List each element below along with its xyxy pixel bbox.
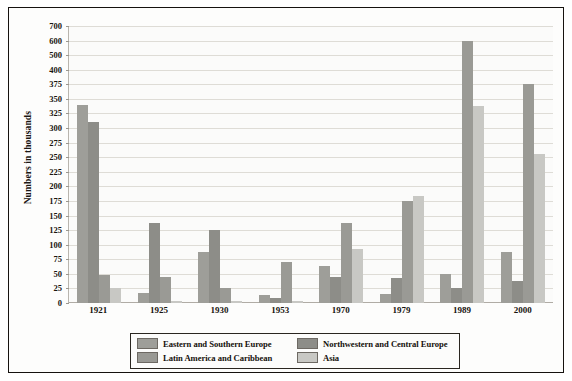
bar-1989-series-1 [440, 274, 451, 303]
legend-swatch-1 [137, 338, 158, 349]
bar-group-1970 [311, 26, 372, 303]
bar-1979-series-2 [391, 278, 402, 303]
x-axis-label-1989: 1989 [432, 305, 493, 315]
legend-swatch-2 [297, 338, 318, 349]
y-axis-tick-700: 700 [49, 22, 62, 31]
y-axis-tick-350: 350 [49, 95, 62, 104]
bar-1930-series-1 [198, 252, 209, 303]
legend-item-4[interactable]: Asia [297, 352, 453, 363]
bar-1925-series-3 [160, 277, 171, 303]
y-axis-tick-225: 225 [49, 168, 62, 177]
bar-2000-series-1 [501, 252, 512, 303]
legend-label-1: Eastern and Southern Europe [163, 339, 272, 349]
x-axis-label-1970: 1970 [311, 305, 372, 315]
bar-1970-series-2 [330, 277, 341, 303]
bar-group-1921 [69, 26, 130, 303]
y-axis-tick-300: 300 [49, 124, 62, 133]
bar-group-2000 [493, 26, 554, 303]
bar-1925-series-4 [171, 301, 182, 303]
bar-1953-series-3 [281, 262, 292, 303]
legend-label-3: Latin America and Caribbean [163, 353, 272, 363]
bar-1930-series-3 [220, 288, 231, 303]
y-axis-tick-500: 500 [49, 51, 62, 60]
y-axis-tick-100: 100 [49, 240, 62, 249]
bar-group-1925 [130, 26, 191, 303]
y-axis-tick-400: 400 [49, 65, 62, 74]
bar-1953-series-4 [292, 301, 303, 303]
y-axis-tick-150: 150 [49, 211, 62, 220]
y-axis-title: Numbers in thousands [19, 8, 37, 308]
legend-item-3[interactable]: Latin America and Caribbean [137, 352, 293, 363]
y-axis-tick-labels: 0255075100125150175200225250275300325350… [39, 26, 65, 303]
bar-1970-series-4 [352, 249, 363, 303]
y-tickmark-0 [66, 303, 69, 304]
y-axis-title-label: Numbers in thousands [23, 111, 33, 204]
bar-1925-series-2 [149, 223, 160, 303]
y-axis-tick-175: 175 [49, 197, 62, 206]
x-axis-label-1930: 1930 [189, 305, 250, 315]
bar-1953-series-1 [259, 295, 270, 303]
y-axis-tick-600: 600 [49, 36, 62, 45]
y-axis-tick-75: 75 [54, 255, 63, 264]
bar-2000-series-3 [523, 84, 534, 303]
bar-group-1979 [372, 26, 433, 303]
chart-page: Numbers in thousands 0255075100125150175… [0, 0, 572, 381]
bar-1989-series-3 [462, 41, 473, 303]
bar-1953-series-2 [270, 298, 281, 303]
bar-group-1989 [432, 26, 493, 303]
bar-group-1930 [190, 26, 251, 303]
y-axis-tick-125: 125 [49, 226, 62, 235]
bar-1930-series-4 [231, 301, 242, 303]
bar-1989-series-2 [451, 288, 462, 303]
bars-layer [69, 26, 553, 303]
bar-2000-series-2 [512, 281, 523, 303]
bar-group-1953 [251, 26, 312, 303]
legend-swatch-4 [297, 352, 318, 363]
x-axis-label-1921: 1921 [68, 305, 129, 315]
y-axis-tick-200: 200 [49, 182, 62, 191]
y-axis-tick-0: 0 [58, 299, 62, 308]
bar-1979-series-3 [402, 201, 413, 303]
bar-1921-series-1 [77, 105, 88, 303]
plot-area [68, 26, 553, 303]
bar-1921-series-3 [99, 275, 110, 303]
chart-legend: Eastern and Southern EuropeNorthwestern … [130, 333, 460, 369]
x-axis-label-2000: 2000 [492, 305, 553, 315]
legend-item-1[interactable]: Eastern and Southern Europe [137, 338, 293, 349]
bar-1989-series-4 [473, 106, 484, 303]
legend-label-2: Northwestern and Central Europe [323, 339, 448, 349]
legend-label-4: Asia [323, 353, 339, 363]
x-axis-tick-labels: 19211925193019531970197919892000 [68, 305, 553, 315]
chart-frame: Numbers in thousands 0255075100125150175… [8, 7, 564, 373]
bar-1921-series-2 [88, 122, 99, 303]
bar-1970-series-1 [319, 266, 330, 303]
y-axis-tick-275: 275 [49, 138, 62, 147]
bar-1930-series-2 [209, 230, 220, 303]
x-axis-label-1979: 1979 [371, 305, 432, 315]
bar-1979-series-4 [413, 196, 424, 303]
y-axis-tick-25: 25 [54, 284, 63, 293]
y-axis-tick-325: 325 [49, 109, 62, 118]
bar-1925-series-1 [138, 293, 149, 303]
bar-1921-series-4 [110, 288, 121, 303]
bar-1970-series-3 [341, 223, 352, 303]
plot-wrapper: 0255075100125150175200225250275300325350… [39, 26, 553, 303]
y-axis-tick-250: 250 [49, 153, 62, 162]
bar-2000-series-4 [534, 154, 545, 303]
x-axis-label-1953: 1953 [250, 305, 311, 315]
bar-1979-series-1 [380, 294, 391, 303]
legend-swatch-3 [137, 352, 158, 363]
y-axis-tick-50: 50 [54, 270, 63, 279]
legend-item-2[interactable]: Northwestern and Central Europe [297, 338, 453, 349]
y-axis-tick-375: 375 [49, 80, 62, 89]
x-axis-label-1925: 1925 [129, 305, 190, 315]
